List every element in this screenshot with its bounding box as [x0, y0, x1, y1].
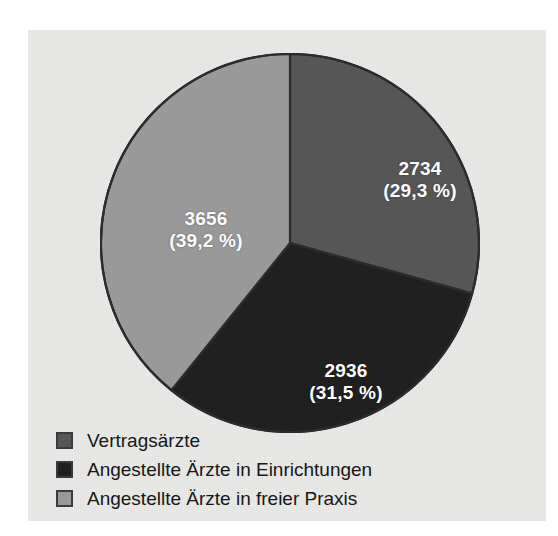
- legend-item-einrichtungen[interactable]: Angestellte Ärzte in Einrichtungen: [56, 455, 526, 484]
- legend: Vertragsärzte Angestellte Ärzte in Einri…: [56, 426, 526, 513]
- slice-value-einrichtungen: 2936: [276, 360, 416, 382]
- slice-percent-einrichtungen: (31,5 %): [276, 382, 416, 404]
- legend-item-vertragsaerzte[interactable]: Vertragsärzte: [56, 426, 526, 455]
- legend-swatch-vertragsaerzte: [56, 432, 73, 449]
- legend-label-vertragsaerzte: Vertragsärzte: [87, 430, 200, 452]
- legend-label-einrichtungen: Angestellte Ärzte in Einrichtungen: [87, 459, 372, 481]
- legend-swatch-einrichtungen: [56, 461, 73, 478]
- legend-label-freie-praxis: Angestellte Ärzte in freier Praxis: [87, 488, 357, 510]
- legend-item-freie-praxis[interactable]: Angestellte Ärzte in freier Praxis: [56, 484, 526, 513]
- figure-panel: 2734 (29,3 %) 2936 (31,5 %) 3656 (39,2 %…: [28, 30, 546, 521]
- pie-chart-screenshot: 2734 (29,3 %) 2936 (31,5 %) 3656 (39,2 %…: [0, 0, 558, 536]
- slice-value-freie-praxis: 3656: [136, 208, 276, 230]
- legend-swatch-freie-praxis: [56, 490, 73, 507]
- slice-value-vertragsaerzte: 2734: [350, 158, 490, 180]
- slice-label-freie-praxis: 3656 (39,2 %): [136, 208, 276, 253]
- slice-percent-vertragsaerzte: (29,3 %): [350, 180, 490, 202]
- slice-label-vertragsaerzte: 2734 (29,3 %): [350, 158, 490, 203]
- slice-percent-freie-praxis: (39,2 %): [136, 230, 276, 252]
- slice-label-einrichtungen: 2936 (31,5 %): [276, 360, 416, 405]
